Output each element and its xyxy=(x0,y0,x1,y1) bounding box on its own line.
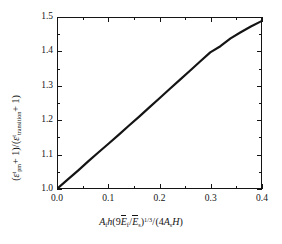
x-label-H: H xyxy=(172,216,179,227)
x-minor-tick xyxy=(83,186,84,189)
y-tick-label: 1.5 xyxy=(41,12,53,22)
y-axis-label-wrapper: (εtpm+ 1)/(εttransition+ 1) xyxy=(0,0,26,244)
y-major-tick-right xyxy=(257,189,262,190)
x-minor-tick-top xyxy=(134,17,135,20)
y-major-tick-right xyxy=(257,86,262,87)
y-minor-tick xyxy=(57,103,60,104)
x-major-tick-top xyxy=(160,17,161,22)
x-tick-label: 0.2 xyxy=(154,194,166,204)
y-label-sub2: transition xyxy=(15,112,22,135)
x-tick-label: 0.0 xyxy=(51,194,63,204)
x-major-tick xyxy=(262,184,263,189)
x-axis-label: Afh(9Ef/Es)1/3/(4AsH) xyxy=(0,216,282,229)
data-series-line xyxy=(58,21,261,188)
y-major-tick-right xyxy=(257,120,262,121)
y-tick-label: 1.0 xyxy=(41,184,53,194)
figure-container: 0.00.10.20.30.4 1.01.11.21.31.41.5 Afh(9… xyxy=(0,0,282,244)
y-minor-tick-right xyxy=(259,34,262,35)
y-label-eps2: ε xyxy=(10,137,21,141)
curve-svg xyxy=(58,18,261,188)
x-major-tick-top xyxy=(262,17,263,22)
x-minor-tick xyxy=(185,186,186,189)
y-axis-label: (εtpm+ 1)/(εttransition+ 1) xyxy=(10,95,23,181)
x-tick-label: 0.1 xyxy=(102,194,114,204)
y-tick-label: 1.2 xyxy=(41,115,53,125)
y-minor-tick xyxy=(57,34,60,35)
y-minor-tick-right xyxy=(259,103,262,104)
x-label-Es: E xyxy=(132,216,138,227)
y-minor-tick xyxy=(57,69,60,70)
y-major-tick xyxy=(57,86,62,87)
x-major-tick-top xyxy=(211,17,212,22)
y-major-tick-right xyxy=(257,51,262,52)
x-minor-tick-top xyxy=(185,17,186,20)
y-major-tick xyxy=(57,189,62,190)
x-major-tick xyxy=(211,184,212,189)
y-tick-label: 1.3 xyxy=(41,81,53,91)
y-label-sub1: pm xyxy=(15,164,22,172)
x-minor-tick-top xyxy=(236,17,237,20)
y-label-eps1: ε xyxy=(10,174,21,178)
y-major-tick xyxy=(57,17,62,18)
x-minor-tick xyxy=(236,186,237,189)
y-minor-tick-right xyxy=(259,172,262,173)
x-major-tick-top xyxy=(108,17,109,22)
y-major-tick xyxy=(57,155,62,156)
y-major-tick xyxy=(57,51,62,52)
x-major-tick xyxy=(108,184,109,189)
y-tick-label: 1.1 xyxy=(41,150,53,160)
x-major-tick xyxy=(160,184,161,189)
x-label-exponent: 1/3 xyxy=(144,216,152,223)
y-minor-tick xyxy=(57,172,60,173)
y-label-sup2: t xyxy=(10,135,17,137)
y-minor-tick-right xyxy=(259,69,262,70)
x-tick-label: 0.3 xyxy=(205,194,217,204)
y-major-tick xyxy=(57,120,62,121)
y-major-tick-right xyxy=(257,155,262,156)
y-major-tick-right xyxy=(257,17,262,18)
x-tick-label: 0.4 xyxy=(256,194,268,204)
y-minor-tick-right xyxy=(259,137,262,138)
y-label-plus1: + 1 xyxy=(10,151,21,164)
x-minor-tick xyxy=(134,186,135,189)
y-label-plus2: + 1 xyxy=(10,99,21,112)
x-label-Ef: E xyxy=(121,216,127,227)
y-minor-tick xyxy=(57,137,60,138)
y-tick-label: 1.4 xyxy=(41,47,53,57)
plot-area xyxy=(57,17,262,189)
x-minor-tick-top xyxy=(83,17,84,20)
y-label-sup1: t xyxy=(10,172,17,174)
